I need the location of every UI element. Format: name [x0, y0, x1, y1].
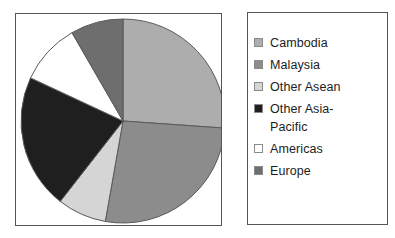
legend-panel: CambodiaMalaysiaOther AseanOther Asia- P… — [247, 12, 388, 225]
legend-item[interactable]: Malaysia — [254, 56, 383, 74]
pie-slice-group: CambodiaMalaysiaOther AseanOther Asia-Pa… — [21, 19, 221, 223]
legend-swatch-other-asia-pacific — [254, 104, 263, 113]
legend-item[interactable]: Europe — [254, 162, 383, 180]
legend-swatch-malaysia — [254, 60, 263, 69]
pie-chart-svg: CambodiaMalaysiaOther AseanOther Asia-Pa… — [16, 14, 221, 225]
pie-chart-panel: CambodiaMalaysiaOther AseanOther Asia-Pa… — [15, 13, 222, 226]
legend-swatch-cambodia — [254, 38, 263, 47]
legend-item-label: Cambodia — [270, 34, 383, 52]
legend-list: CambodiaMalaysiaOther AseanOther Asia- P… — [254, 34, 383, 184]
legend-item-label: Europe — [270, 162, 383, 180]
legend-swatch-other-asean — [254, 82, 263, 91]
legend-item[interactable]: Americas — [254, 140, 383, 158]
legend-item-label: Other Asia- Pacific — [270, 100, 383, 136]
legend-item-label: Malaysia — [270, 56, 383, 74]
legend-swatch-europe — [254, 166, 263, 175]
legend-swatch-americas — [254, 144, 263, 153]
legend-item[interactable]: Cambodia — [254, 34, 383, 52]
pie-slice-malaysia[interactable]: Malaysia — [105, 121, 221, 223]
pie-chart-figure: CambodiaMalaysiaOther AseanOther Asia-Pa… — [0, 0, 395, 238]
legend-item[interactable]: Other Asean — [254, 78, 383, 96]
legend-item-label: Americas — [270, 140, 383, 158]
legend-item-label: Other Asean — [270, 78, 383, 96]
legend-item[interactable]: Other Asia- Pacific — [254, 100, 383, 136]
pie-slice-cambodia[interactable]: Cambodia — [123, 19, 221, 128]
